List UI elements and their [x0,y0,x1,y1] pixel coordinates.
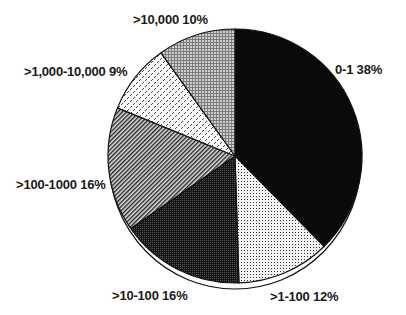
slice-label-100-1000: >100-1000 16% [16,177,106,192]
slice-label-0-1: 0-1 38% [335,62,382,77]
slice-label-1-100: >1-100 12% [270,289,338,304]
slice-label-10000: >10,000 10% [133,12,208,27]
pie-slices [108,29,362,283]
slice-label-1000-10000: >1,000-10,000 9% [24,64,127,79]
slice-label-10-100: >10-100 16% [112,288,188,303]
pie-chart [0,0,406,315]
